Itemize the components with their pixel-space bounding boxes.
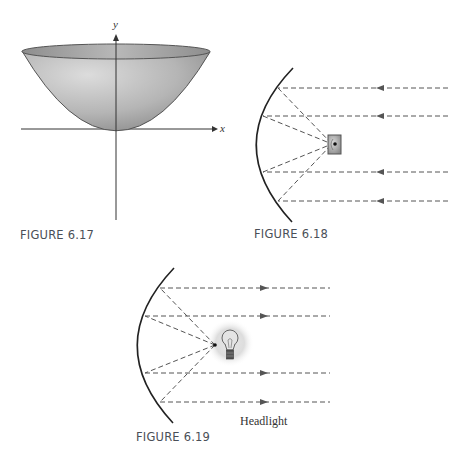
x-axis-arrow-icon <box>212 126 218 132</box>
ray-arrowheads <box>376 85 384 204</box>
figure-6-17-paraboloid <box>21 34 218 220</box>
arrow-right-icon <box>260 399 268 405</box>
arrow-left-icon <box>376 198 384 204</box>
focus-point <box>213 343 217 347</box>
arrow-right-icon <box>260 285 268 291</box>
x-axis-label: x <box>220 122 225 134</box>
figure-caption-6-17: FIGURE 6.17 <box>20 228 94 242</box>
incoming-rays <box>263 88 448 201</box>
parabolic-mirror <box>137 268 174 423</box>
parabolic-mirror <box>256 68 293 222</box>
headlight-label: Headlight <box>240 414 287 429</box>
arrow-left-icon <box>376 85 384 91</box>
figure-6-19-headlight <box>137 268 330 423</box>
arrow-left-icon <box>376 113 384 119</box>
figure-6-18-receiver <box>256 68 448 222</box>
arrow-right-icon <box>260 370 268 376</box>
focus-point <box>333 142 337 146</box>
y-axis-arrow-icon <box>113 34 119 41</box>
arrow-right-icon <box>260 313 268 319</box>
figure-caption-6-19: FIGURE 6.19 <box>136 430 210 444</box>
y-axis-label: y <box>113 18 118 30</box>
ray-arrowheads <box>260 285 268 405</box>
arrow-left-icon <box>376 169 384 175</box>
figure-caption-6-18: FIGURE 6.18 <box>254 227 328 241</box>
